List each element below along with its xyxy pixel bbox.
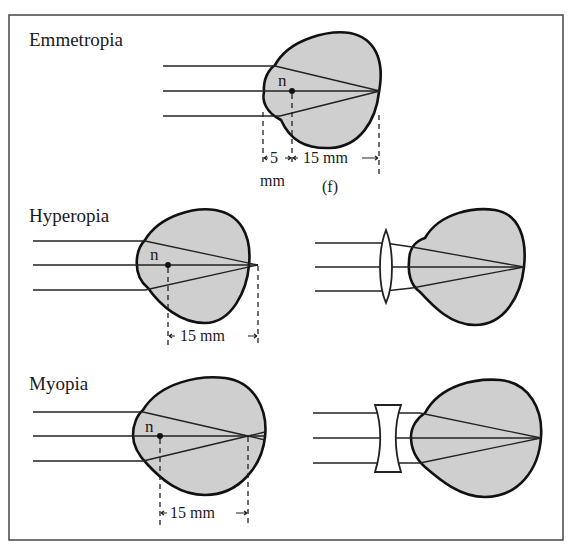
panel-title-emmetropia: Emmetropia bbox=[29, 29, 123, 50]
convex-lens-icon bbox=[380, 230, 392, 303]
panel-title-hyperopia: Hyperopia bbox=[29, 205, 110, 226]
dim-5mm-unit: mm bbox=[260, 172, 285, 189]
dim-5mm-value: 5 bbox=[270, 149, 278, 166]
dim-focal-label: (f) bbox=[322, 178, 338, 196]
panel-myopia: Myopia n 15 mm bbox=[29, 373, 265, 525]
panel-emmetropia: Emmetropia n 5 mm 15 mm (f) bbox=[29, 29, 381, 196]
panel-hyperopia-corrected bbox=[315, 209, 525, 325]
dim-15mm-label: 15 mm bbox=[303, 149, 348, 166]
nodal-point-hyperopia bbox=[165, 262, 171, 268]
panel-title-myopia: Myopia bbox=[29, 373, 89, 394]
nodal-label-myopia: n bbox=[145, 417, 154, 436]
panel-myopia-corrected bbox=[313, 380, 541, 497]
nodal-point-myopia bbox=[157, 433, 163, 439]
eyeball-hyperopia bbox=[137, 209, 250, 323]
dim-15mm-label-myopia: 15 mm bbox=[170, 504, 215, 521]
panel-hyperopia: Hyperopia n 15 mm bbox=[29, 205, 258, 346]
dim-15mm-label-hyperopia: 15 mm bbox=[180, 327, 225, 344]
nodal-label-emmetropia: n bbox=[278, 71, 287, 90]
eyeball-emmetropia bbox=[263, 32, 380, 148]
refractive-errors-diagram: Emmetropia n 5 mm 15 mm (f) Hyperopia bbox=[0, 0, 570, 547]
nodal-label-hyperopia: n bbox=[150, 245, 159, 264]
nodal-point-emmetropia bbox=[289, 88, 295, 94]
